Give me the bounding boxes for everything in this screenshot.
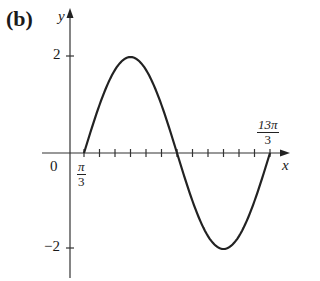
x-axis-arrow-icon: [280, 150, 290, 157]
x-tick-label-13pi-over-3: 13π 3: [257, 118, 279, 147]
y-axis-arrow-icon: [67, 8, 74, 18]
y-tick-label-neg2: −2: [44, 238, 60, 255]
y-axis-label: y: [58, 8, 65, 25]
x-axis-label: x: [282, 157, 289, 174]
x-tick-label-pi-over-3: π 3: [77, 160, 86, 189]
y-tick-label-2: 2: [53, 46, 61, 63]
origin-label: 0: [50, 158, 58, 175]
